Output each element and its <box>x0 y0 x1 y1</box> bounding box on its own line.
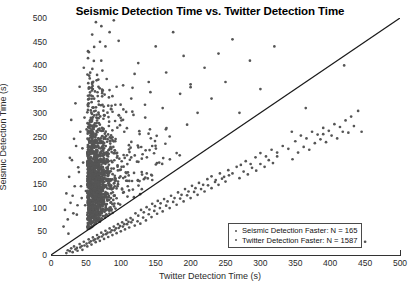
x-axis-title: Twitter Detection Time (s) <box>0 271 420 281</box>
y-tick-label: 450 <box>33 37 47 47</box>
x-tick-label: 150 <box>149 258 163 268</box>
legend-marker-icon <box>235 239 237 241</box>
y-tick-label: 250 <box>33 132 47 142</box>
y-tick-label: 0 <box>42 250 47 260</box>
x-tick-label: 350 <box>288 258 302 268</box>
x-tick-label: 0 <box>49 258 54 268</box>
plot-area <box>51 18 400 255</box>
y-tick <box>52 255 57 256</box>
y-tick-label: 100 <box>33 203 47 213</box>
x-tick-label: 100 <box>114 258 128 268</box>
y-tick-label: 500 <box>33 13 47 23</box>
y-axis-title: Seismic Detection Time (s) <box>0 83 8 190</box>
y-tick-label: 50 <box>38 226 47 236</box>
legend-item-twitter-faster: Twitter Detection Faster: N = 1587 <box>232 236 357 246</box>
y-tick-label: 300 <box>33 108 47 118</box>
y-tick-label: 200 <box>33 155 47 165</box>
x-axis-line <box>51 255 401 256</box>
y-tick-label: 350 <box>33 84 47 94</box>
x-tick-label: 500 <box>393 258 407 268</box>
x-tick-label: 400 <box>323 258 337 268</box>
legend-label-seismic-faster: Seismic Detection Faster: N = 165 <box>242 226 357 236</box>
x-tick-label: 300 <box>253 258 267 268</box>
x-tick-label: 250 <box>218 258 232 268</box>
legend-marker-icon <box>235 230 237 232</box>
x-tick <box>400 250 401 255</box>
chart-title: Seismic Detection Time vs. Twitter Detec… <box>0 5 420 17</box>
scatter-plot-figure: Seismic Detection Time vs. Twitter Detec… <box>0 0 420 292</box>
x-tick-label: 450 <box>358 258 372 268</box>
legend: Seismic Detection Faster: N = 165 Twitte… <box>228 223 362 248</box>
legend-item-seismic-faster: Seismic Detection Faster: N = 165 <box>232 226 357 236</box>
identity-reference-line <box>51 18 400 255</box>
y-tick-label: 400 <box>33 60 47 70</box>
y-tick-label: 150 <box>33 179 47 189</box>
legend-label-twitter-faster: Twitter Detection Faster: N = 1587 <box>242 236 357 246</box>
x-tick-label: 50 <box>81 258 90 268</box>
x-tick-label: 200 <box>184 258 198 268</box>
